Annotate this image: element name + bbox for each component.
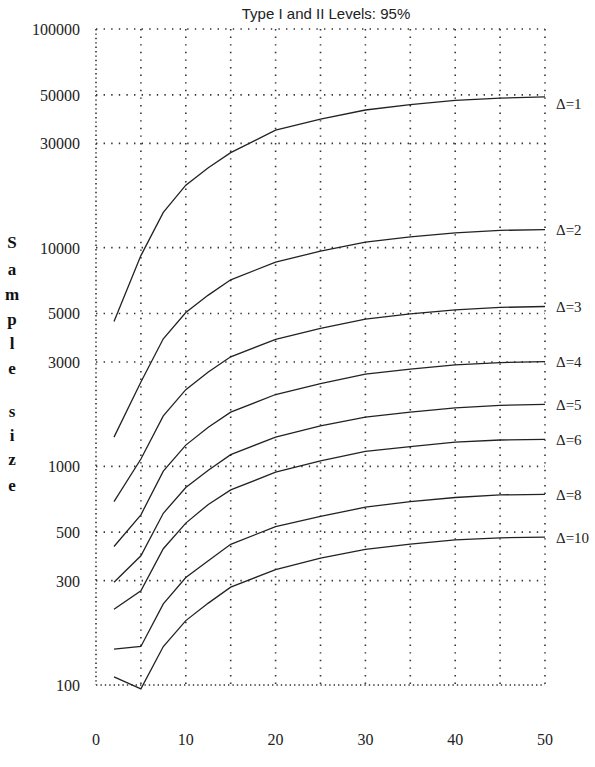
curve-labels: Δ=1Δ=2Δ=3Δ=4Δ=5Δ=6Δ=8Δ=10 — [556, 96, 589, 546]
y-tick-label: 5000 — [48, 305, 80, 322]
y-axis-label-letter: e — [8, 476, 16, 495]
x-tick-label: 0 — [92, 731, 100, 748]
curve-label: Δ=4 — [556, 354, 582, 370]
sample-size-chart: Type I and II Levels: 95% 10000050000300… — [0, 0, 595, 767]
x-axis-ticks: 01020304050 — [92, 731, 553, 748]
y-tick-label: 50000 — [40, 87, 80, 104]
y-axis-label-letter: z — [8, 450, 16, 469]
y-axis-label-letter: e — [8, 359, 16, 378]
chart-subtitle: Type I and II Levels: 95% — [242, 5, 410, 22]
y-tick-label: 3000 — [48, 354, 80, 371]
curve-delta-1 — [114, 97, 545, 322]
x-tick-label: 20 — [268, 731, 284, 748]
curve-label: Δ=8 — [556, 487, 582, 503]
y-tick-label: 100 — [56, 677, 80, 694]
y-tick-label: 30000 — [40, 135, 80, 152]
y-axis-label-letter: p — [7, 310, 16, 329]
curve-delta-8 — [114, 494, 545, 649]
y-tick-label: 500 — [56, 524, 80, 541]
curves — [114, 97, 545, 689]
curve-label: Δ=1 — [556, 96, 582, 112]
curve-delta-6 — [114, 439, 545, 609]
y-axis-label-letter: m — [5, 285, 19, 304]
x-tick-label: 30 — [357, 731, 373, 748]
y-axis-label-letter: S — [7, 233, 16, 252]
x-tick-label: 10 — [178, 731, 194, 748]
curve-delta-10 — [114, 537, 545, 689]
y-tick-label: 10000 — [40, 240, 80, 257]
grid — [96, 29, 545, 685]
y-axis-label-letter: i — [10, 426, 15, 445]
y-tick-label: 100000 — [32, 21, 80, 38]
y-axis-label: Samplesize — [5, 233, 19, 495]
curve-delta-5 — [114, 404, 545, 582]
y-tick-label: 1000 — [48, 458, 80, 475]
curve-label: Δ=10 — [556, 530, 589, 546]
curve-label: Δ=5 — [556, 397, 582, 413]
y-axis-label-letter: l — [10, 334, 15, 353]
y-axis-label-letter: s — [9, 402, 16, 421]
curve-label: Δ=6 — [556, 432, 582, 448]
y-tick-label: 300 — [56, 573, 80, 590]
curve-delta-3 — [114, 307, 545, 502]
curve-delta-4 — [114, 362, 545, 547]
curve-label: Δ=3 — [556, 299, 582, 315]
x-tick-label: 50 — [537, 731, 553, 748]
curve-label: Δ=2 — [556, 222, 582, 238]
y-axis-label-letter: a — [8, 260, 17, 279]
x-tick-label: 40 — [447, 731, 463, 748]
y-axis-ticks: 1000005000030000100005000300010005003001… — [32, 21, 80, 694]
